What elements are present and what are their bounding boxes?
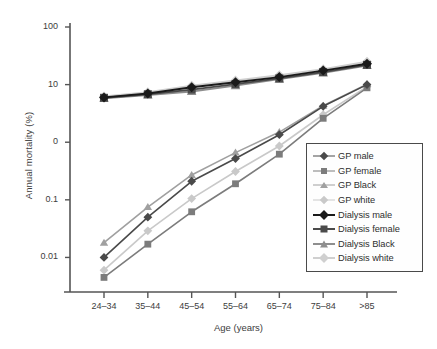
y-axis-tick-label: 0.01 — [16, 251, 58, 261]
legend-marker-icon — [313, 179, 335, 191]
y-axis-tick-label: 100 — [16, 21, 58, 31]
legend-item[interactable]: GP white — [313, 193, 418, 208]
legend-item[interactable]: Dialysis male — [313, 207, 418, 222]
legend-item[interactable]: GP Black — [313, 178, 418, 193]
legend-item[interactable]: Dialysis Black — [313, 237, 418, 252]
legend-marker-icon — [313, 252, 335, 264]
legend-label: GP female — [335, 166, 381, 176]
legend-label: Dialysis Black — [335, 239, 395, 249]
y-axis-tick-label: 0.1 — [16, 194, 58, 204]
chart-legend: GP maleGP femaleGP BlackGP whiteDialysis… — [306, 143, 423, 272]
legend-label: Dialysis male — [335, 210, 392, 220]
legend-label: GP male — [335, 151, 374, 161]
legend-marker-icon — [313, 165, 335, 177]
y-axis-tick-label: 0 — [16, 136, 58, 146]
legend-marker-icon — [313, 150, 335, 162]
legend-marker-icon — [313, 194, 335, 206]
legend-item[interactable]: Dialysis female — [313, 222, 418, 237]
y-axis-title: Annual mortality (%) — [23, 76, 34, 236]
legend-label: GP Black — [335, 180, 376, 190]
x-axis-tick-label: >85 — [340, 301, 394, 311]
legend-label: Dialysis white — [335, 253, 394, 263]
legend-item[interactable]: Dialysis white — [313, 251, 418, 266]
legend-label: Dialysis female — [335, 224, 400, 234]
x-axis-title: Age (years) — [0, 322, 437, 333]
x-axis-title-text: Age (years) — [174, 322, 263, 333]
legend-label: GP white — [335, 195, 375, 205]
mortality-chart-figure: Annual mortality (%) Age (years) 1001000… — [0, 0, 437, 349]
legend-marker-icon — [313, 238, 335, 250]
legend-item[interactable]: GP female — [313, 164, 418, 179]
legend-marker-icon — [313, 223, 335, 235]
legend-item[interactable]: GP male — [313, 149, 418, 164]
legend-marker-icon — [313, 209, 335, 221]
y-axis-tick-label: 10 — [16, 79, 58, 89]
